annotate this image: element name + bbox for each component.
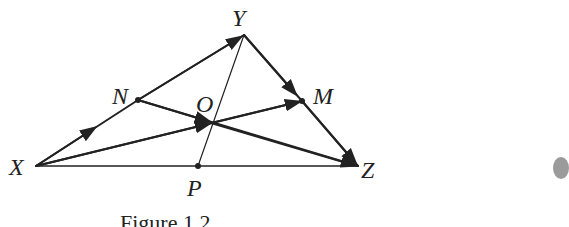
point-m <box>299 98 305 104</box>
label-n: N <box>112 84 128 108</box>
label-z: Z <box>361 158 374 182</box>
triangle-diagram <box>0 0 569 227</box>
point-p <box>195 163 201 169</box>
label-m: M <box>313 84 333 108</box>
label-y: Y <box>232 6 245 30</box>
figure-caption: Figure 1.2 <box>120 212 210 227</box>
label-p: P <box>187 176 202 200</box>
smudge-mark <box>553 157 569 179</box>
point-n <box>135 97 141 103</box>
label-x: X <box>9 155 24 179</box>
label-o: O <box>196 92 213 116</box>
